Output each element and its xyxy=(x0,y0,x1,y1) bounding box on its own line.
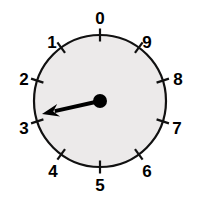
dial-label-4: 4 xyxy=(48,162,58,181)
dial-label-5: 5 xyxy=(95,176,104,195)
dial-label-8: 8 xyxy=(173,70,182,89)
dial-label-0: 0 xyxy=(95,9,104,28)
needle-hub xyxy=(93,94,107,108)
dial-label-6: 6 xyxy=(142,162,151,181)
dial-label-2: 2 xyxy=(19,70,28,89)
dial-svg-canvas: 0123456789 xyxy=(0,0,197,201)
dial-gauge-widget: 0123456789 xyxy=(0,0,197,201)
dial-label-3: 3 xyxy=(19,119,28,138)
dial-label-1: 1 xyxy=(47,33,56,52)
dial-label-7: 7 xyxy=(172,119,181,138)
dial-label-9: 9 xyxy=(142,33,151,52)
